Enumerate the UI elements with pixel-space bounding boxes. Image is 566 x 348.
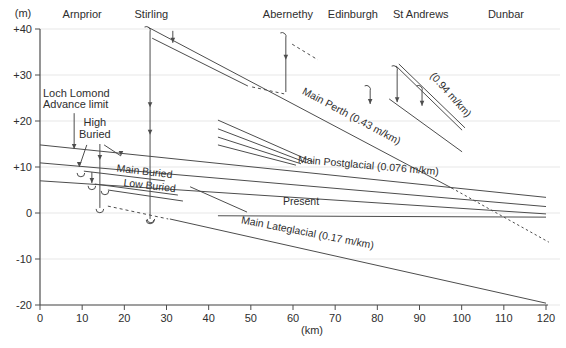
pointer-high-buried-pointer-right xyxy=(104,145,121,156)
x-tick-label: 20 xyxy=(118,312,130,324)
x-tick-label: 40 xyxy=(203,312,215,324)
shoreline-end-hook xyxy=(88,186,96,190)
line-label: Present xyxy=(283,195,319,207)
arrowhead xyxy=(148,102,153,107)
shoreline-postglacial-fragment-4 xyxy=(218,145,296,165)
shoreline-east-fife-steep-2 xyxy=(389,99,462,152)
line-label: (0.94 m/km) xyxy=(428,70,474,120)
shoreline-postglacial-fragment-2 xyxy=(218,129,307,163)
arrowhead xyxy=(284,55,289,60)
shoreline-abernethy-upper xyxy=(292,44,318,60)
place-label-dunbar: Dunbar xyxy=(488,8,524,20)
x-tick-label: 0 xyxy=(37,312,43,324)
x-tick-label: 70 xyxy=(329,312,341,324)
y-tick-label: +30 xyxy=(13,69,32,81)
arrowhead xyxy=(98,155,103,160)
y-tick-label: -10 xyxy=(16,253,32,265)
shoreline-main-lateglacial xyxy=(170,219,546,303)
annotation-high-buried-label: High xyxy=(84,116,107,128)
arrowhead xyxy=(368,99,373,104)
shoreline-end-hook xyxy=(101,191,109,195)
shoreline-end-hook xyxy=(77,173,85,177)
annotation-loch-lomond-advance-limit: Loch Lomond xyxy=(43,87,110,99)
arrowhead xyxy=(148,130,153,135)
y-axis-unit-label: (m) xyxy=(15,7,32,19)
x-tick-label: 80 xyxy=(371,312,383,324)
shoreline-height-distance-diagram: +40+30+20+100-10-20010203040506070809010… xyxy=(0,0,566,348)
place-label-st-andrews: St Andrews xyxy=(393,8,449,20)
y-tick-label: +40 xyxy=(13,23,32,35)
x-tick-label: 100 xyxy=(452,312,470,324)
place-label-abernethy: Abernethy xyxy=(263,8,314,20)
x-axis-unit-label: (km) xyxy=(301,324,323,336)
y-tick-label: +10 xyxy=(13,161,32,173)
shoreline-end-hook xyxy=(96,209,104,213)
shoreline-present xyxy=(218,216,546,217)
x-tick-label: 90 xyxy=(413,312,425,324)
y-tick-label: 0 xyxy=(26,207,32,219)
place-label-edinburgh: Edinburgh xyxy=(328,8,378,20)
x-tick-label: 60 xyxy=(287,312,299,324)
x-tick-label: 30 xyxy=(160,312,172,324)
line-label: Main Lateglacial (0.17 m/km) xyxy=(240,213,375,251)
site-top-hook xyxy=(280,33,286,38)
annotation-loch-lomond-advance-limit: Advance limit xyxy=(43,98,108,110)
arrowhead xyxy=(171,38,176,43)
site-top-hook xyxy=(392,66,398,71)
arrowhead xyxy=(90,178,95,183)
place-label-stirling: Stirling xyxy=(135,8,169,20)
x-tick-label: 110 xyxy=(495,312,513,324)
arrowhead xyxy=(420,101,425,106)
chart-canvas: +40+30+20+100-10-20010203040506070809010… xyxy=(0,0,566,348)
site-top-hook xyxy=(365,85,371,90)
place-label-arnprior: Arnprior xyxy=(63,8,102,20)
shoreline-perth-upper xyxy=(152,38,248,86)
x-tick-label: 10 xyxy=(76,312,88,324)
arrowhead xyxy=(395,97,400,102)
y-tick-label: +20 xyxy=(13,115,32,127)
annotation-high-buried-label: Buried xyxy=(79,128,111,140)
shoreline-present-leadin xyxy=(190,187,247,212)
x-tick-label: 120 xyxy=(537,312,555,324)
shoreline-postglacial-fragment-3 xyxy=(218,137,301,164)
y-tick-label: -20 xyxy=(16,299,32,311)
x-tick-label: 50 xyxy=(245,312,257,324)
